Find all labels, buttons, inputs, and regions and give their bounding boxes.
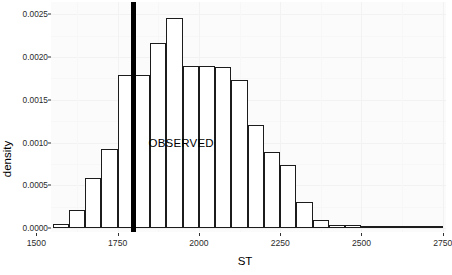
x-tick-label: 1750 xyxy=(108,238,127,248)
x-tick-mark xyxy=(443,233,444,236)
x-tick-mark xyxy=(118,233,119,236)
x-tick-label: 2000 xyxy=(189,238,208,248)
x-axis-title: ST xyxy=(56,255,434,267)
x-tick-mark xyxy=(280,233,281,236)
x-tick-label: 2500 xyxy=(352,238,371,248)
x-tick-label: 1500 xyxy=(27,238,46,248)
x-tick-mark xyxy=(36,233,37,236)
x-tick-mark xyxy=(199,233,200,236)
x-tick-label: 2250 xyxy=(271,238,290,248)
x-tick-mark xyxy=(361,233,362,236)
x-tick-label: 2750 xyxy=(433,238,452,248)
